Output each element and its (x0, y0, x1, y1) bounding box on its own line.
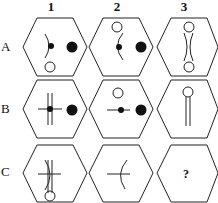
missing-answer-marker: ? (183, 167, 189, 181)
cell-b3-figure (183, 87, 193, 126)
cell-a3-figure (184, 22, 194, 72)
cell-c2-figure (107, 160, 130, 189)
puzzle-grid: ? (0, 0, 218, 203)
cell-b2-figure (107, 88, 147, 116)
cell-a1-figure (45, 34, 78, 72)
cell-b1-figure (38, 93, 78, 125)
cell-c1-figure (38, 160, 61, 201)
cell-a2-figure (112, 22, 147, 60)
hexagon-b3 (157, 80, 218, 138)
